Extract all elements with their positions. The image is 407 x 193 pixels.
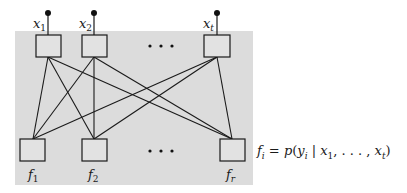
formula-p: p: [284, 143, 292, 158]
terminal-dot-xt: [214, 10, 220, 16]
input-node-x1: [36, 35, 61, 57]
terminal-dot-x1: [45, 10, 51, 16]
formula-bar: |: [308, 143, 321, 158]
output-node-f2: [82, 139, 107, 161]
formula-dots: , . . . ,: [333, 143, 374, 158]
output-node-fr: [220, 139, 245, 161]
label-x2: x2: [79, 16, 92, 33]
formula-eq: =: [265, 143, 284, 158]
formula-xt: x: [375, 143, 382, 158]
label-x1: x1: [33, 16, 46, 33]
terminal-dot-x2: [91, 10, 97, 16]
formula-close: ): [386, 143, 391, 158]
label-xt: xt: [203, 16, 214, 33]
output-node-f1: [20, 139, 45, 161]
input-node-x2: [82, 35, 107, 57]
formula-y: y: [297, 143, 304, 158]
network-diagram: x1 x2 xt f1 f2 fr: [0, 0, 407, 193]
formula-x1: x: [320, 143, 327, 158]
formula: fi = p(yi | x1, . . . , xt): [257, 143, 391, 161]
input-terminal-dots: [45, 10, 220, 16]
input-node-xt: [204, 35, 230, 57]
